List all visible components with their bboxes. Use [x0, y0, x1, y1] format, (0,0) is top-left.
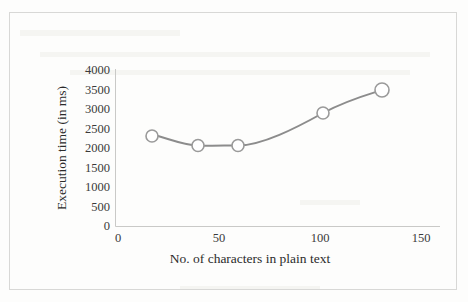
data-point-marker — [232, 140, 244, 152]
y-tick-label: 2500 — [85, 122, 110, 136]
x-tick-label: 0 — [115, 231, 121, 245]
data-point-marker — [375, 83, 389, 97]
data-point-marker — [146, 130, 158, 142]
line-chart: 4000 3500 3000 2500 2000 1500 1000 500 0… — [0, 0, 468, 302]
y-tick-label: 4000 — [85, 63, 110, 77]
data-point-marker — [317, 107, 329, 119]
y-tick-label: 1000 — [85, 180, 110, 194]
y-tick-label: 3000 — [85, 102, 110, 116]
y-tick-label: 3500 — [85, 83, 110, 97]
x-tick-label: 150 — [412, 231, 431, 245]
x-axis-title: No. of characters in plain text — [170, 251, 331, 266]
y-tick-label: 500 — [91, 200, 110, 214]
y-tick-label: 0 — [104, 219, 110, 233]
x-tick-label: 100 — [311, 231, 330, 245]
y-axis-title: Execution time (in ms) — [54, 86, 69, 210]
data-point-marker — [192, 140, 204, 152]
y-tick-label: 2000 — [85, 141, 110, 155]
scanned-page: 4000 3500 3000 2500 2000 1500 1000 500 0… — [0, 0, 468, 302]
series-line-execution-time — [158, 90, 382, 146]
y-tick-label: 1500 — [85, 161, 110, 175]
x-tick-label: 50 — [213, 231, 226, 245]
